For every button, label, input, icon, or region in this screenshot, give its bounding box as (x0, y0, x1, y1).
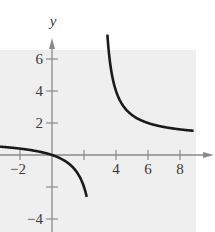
chart: −2468642−4 y (0, 0, 215, 232)
x-tick-label: 4 (112, 161, 120, 177)
plot-background (0, 50, 196, 232)
x-tick-label: 8 (176, 161, 184, 177)
y-tick-label: 2 (36, 115, 44, 131)
x-axis-arrow-icon (203, 152, 214, 158)
y-tick-label: 4 (36, 83, 44, 99)
y-axis-label: y (48, 13, 57, 29)
y-tick-label: −4 (27, 211, 43, 227)
x-tick-label: 6 (144, 161, 152, 177)
y-axis-arrow-icon (49, 38, 55, 49)
x-tick-label: −2 (10, 161, 26, 177)
y-tick-label: 6 (36, 51, 44, 67)
